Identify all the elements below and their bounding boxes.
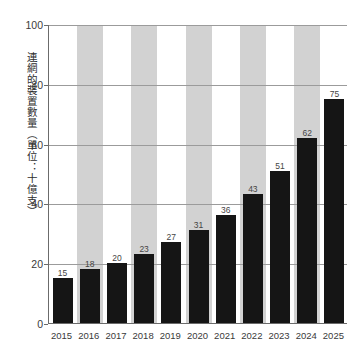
bar[interactable] (80, 269, 100, 323)
bar[interactable] (216, 215, 236, 323)
y-tick-label: 20 (17, 258, 43, 270)
bar-value-label: 43 (237, 184, 269, 194)
top-rule (49, 25, 347, 26)
bar-value-label: 20 (101, 253, 133, 263)
y-tick-label: 0 (17, 318, 43, 330)
bar-value-label: 62 (291, 128, 323, 138)
y-tick-label: 80 (17, 79, 43, 91)
y-tick-label: 40 (17, 198, 43, 210)
bar-value-label: 75 (318, 89, 350, 99)
bar-value-label: 51 (264, 161, 296, 171)
bar[interactable] (297, 138, 317, 323)
bar-value-label: 31 (183, 220, 215, 230)
bar[interactable] (243, 194, 263, 323)
y-tick-label: 100 (17, 19, 43, 31)
bar[interactable] (189, 230, 209, 323)
bar-value-label: 36 (210, 205, 242, 215)
bar[interactable] (53, 278, 73, 323)
y-tick-mark (44, 264, 48, 265)
bar[interactable] (134, 254, 154, 323)
x-tick-label: 2025 (317, 330, 349, 341)
y-tick-mark (44, 85, 48, 86)
plot-area: 1518202327313643516275 (48, 25, 347, 324)
bar[interactable] (107, 263, 127, 323)
y-tick-mark (44, 204, 48, 205)
y-tick-mark (44, 25, 48, 26)
y-tick-mark (44, 324, 48, 325)
bar[interactable] (270, 171, 290, 323)
bar[interactable] (324, 99, 344, 323)
gridline (49, 85, 347, 86)
bar[interactable] (161, 242, 181, 323)
bar-value-label: 15 (47, 268, 79, 278)
bar-value-label: 27 (155, 232, 187, 242)
bar-chart-figure: 連網的裝置數量（單位：十億支） 1518202327313643516275 0… (0, 0, 362, 363)
y-tick-mark (44, 145, 48, 146)
bar-value-label: 23 (128, 244, 160, 254)
y-tick-label: 60 (17, 139, 43, 151)
